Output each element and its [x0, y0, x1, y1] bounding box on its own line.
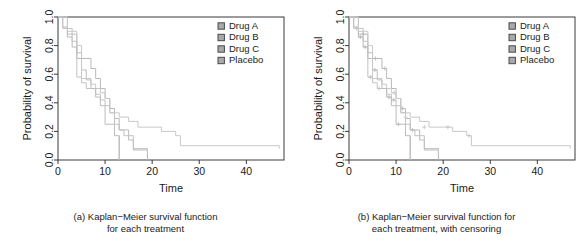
caption-b-line2: each treatment, with censoring [291, 223, 582, 235]
censoring-mark [422, 125, 426, 129]
legend-label-drug-a: Drug A [520, 20, 550, 31]
censoring-mark [387, 95, 391, 99]
legend-marker-drug-b [218, 34, 224, 40]
y-axis-title: Probability of survival [312, 37, 324, 141]
x-tick-label: 0 [55, 165, 61, 177]
legend-label-drug-b: Drug B [229, 31, 259, 42]
legend-label-placebo: Placebo [520, 54, 554, 65]
legend-label-drug-b: Drug B [520, 31, 550, 42]
y-tick-label: 0.6 [43, 67, 55, 82]
x-tick-label: 10 [390, 165, 402, 177]
censoring-mark [410, 128, 414, 132]
figure-container: 010203040Time0.00.20.40.60.81.0Probabili… [0, 0, 582, 241]
x-tick-label: 20 [437, 165, 449, 177]
censoring-mark [392, 98, 396, 102]
legend-label-drug-a: Drug A [229, 20, 259, 31]
legend-marker-drug-c [218, 46, 224, 52]
y-tick-label: 0.4 [43, 95, 55, 110]
legend-marker-drug-a [218, 23, 224, 29]
legend-label-placebo: Placebo [229, 54, 263, 65]
y-tick-label: 0.2 [334, 124, 346, 139]
x-axis-title: Time [450, 182, 474, 194]
panel-b: 010203040Time0.00.20.40.60.81.0Probabili… [291, 0, 582, 241]
y-tick-label: 0.0 [334, 153, 346, 168]
survival-curve-drug-b [58, 17, 147, 154]
caption-a-line1: (a) Kaplan−Meier survival function [0, 211, 291, 223]
censoring-mark [361, 32, 365, 36]
y-tick-label: 1.0 [43, 10, 55, 25]
y-tick-label: 0.0 [43, 153, 55, 168]
censoring-mark [446, 125, 450, 129]
y-tick-label: 0.8 [43, 38, 55, 53]
x-tick-label: 30 [193, 165, 205, 177]
plot-a-svg: 010203040Time0.00.20.40.60.81.0Probabili… [0, 0, 291, 241]
survival-curve-drug-a [58, 17, 147, 160]
panel-a: 010203040Time0.00.20.40.60.81.0Probabili… [0, 0, 291, 241]
legend-marker-placebo [218, 57, 224, 63]
censoring-mark [373, 68, 377, 72]
censoring-mark [396, 122, 400, 126]
x-tick-label: 10 [99, 165, 111, 177]
y-tick-label: 0.4 [334, 95, 346, 110]
plot-a-body: 010203040Time0.00.20.40.60.81.0Probabili… [21, 10, 284, 194]
legend-label-drug-c: Drug C [229, 43, 259, 54]
y-tick-label: 0.6 [334, 67, 346, 82]
caption-b-line1: (b) Kaplan−Meier survival function for [291, 211, 582, 223]
legend-marker-drug-c [509, 46, 515, 52]
y-tick-label: 1.0 [334, 10, 346, 25]
censoring-mark [373, 56, 377, 60]
x-tick-label: 40 [240, 165, 252, 177]
caption-a-line2: for each treatment [0, 223, 291, 235]
y-tick-label: 0.2 [43, 124, 55, 139]
x-tick-label: 20 [146, 165, 158, 177]
plot-b-svg: 010203040Time0.00.20.40.60.81.0Probabili… [291, 0, 582, 241]
x-axis-title: Time [159, 182, 183, 194]
x-tick-label: 30 [484, 165, 496, 177]
legend-marker-drug-a [509, 23, 515, 29]
legend-label-drug-c: Drug C [520, 43, 550, 54]
survival-curve-drug-b [349, 17, 438, 154]
plot-b-body: 010203040Time0.00.20.40.60.81.0Probabili… [312, 10, 575, 194]
legend-marker-placebo [509, 57, 515, 63]
caption-b: (b) Kaplan−Meier survival function for e… [291, 211, 582, 235]
survival-curve-drug-a [349, 17, 438, 160]
y-axis-title: Probability of survival [21, 37, 33, 141]
x-tick-label: 40 [531, 165, 543, 177]
censoring-mark [467, 134, 471, 138]
legend-marker-drug-b [509, 34, 515, 40]
x-tick-label: 0 [346, 165, 352, 177]
y-tick-label: 0.8 [334, 38, 346, 53]
caption-a: (a) Kaplan−Meier survival function for e… [0, 211, 291, 235]
